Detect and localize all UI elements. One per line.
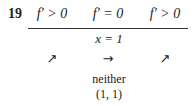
flat-arrow-icon: → bbox=[103, 51, 114, 66]
point-coordinates: (1, 1) bbox=[96, 87, 122, 102]
sign-condition-middle: f′ = 0 bbox=[93, 6, 123, 22]
sign-condition-left: f′ > 0 bbox=[37, 6, 67, 22]
increasing-arrow-icon: ↗ bbox=[160, 51, 171, 66]
number-line-divider bbox=[28, 28, 188, 29]
classification-label: neither bbox=[92, 72, 125, 87]
critical-point-label: x = 1 bbox=[95, 31, 123, 47]
sign-condition-right: f′ > 0 bbox=[150, 6, 180, 22]
problem-number: 19 bbox=[8, 6, 22, 22]
increasing-arrow-icon: ↗ bbox=[47, 51, 58, 66]
